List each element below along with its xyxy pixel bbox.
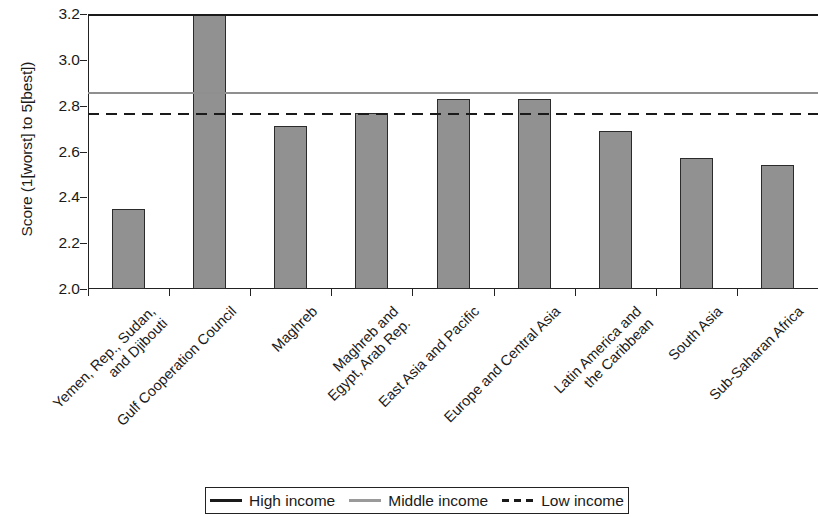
- y-tick-label: 2.6: [20, 144, 80, 160]
- reference-line-high: [88, 14, 818, 16]
- x-tick-mark: [169, 288, 170, 296]
- bar: [193, 14, 226, 289]
- legend-entry: Middle income: [342, 492, 495, 510]
- bar: [761, 165, 794, 289]
- y-tick-label: 2.2: [20, 235, 80, 251]
- y-tick-mark: [80, 289, 87, 290]
- y-tick-mark: [80, 197, 87, 198]
- bar: [599, 131, 632, 289]
- x-category-label: Europe and Central Asia: [389, 303, 564, 478]
- y-tick-label: 2.0: [20, 281, 80, 297]
- y-tick-mark: [80, 152, 87, 153]
- legend-swatch-solid-dark: [210, 499, 242, 501]
- bar: [518, 99, 551, 289]
- bar: [355, 113, 388, 289]
- x-tick-mark: [575, 288, 576, 296]
- legend-label: Low income: [541, 492, 624, 510]
- chart-legend: High incomeMiddle incomeLow income: [205, 487, 629, 514]
- x-category-label: Sub-Saharan Africa: [633, 303, 808, 478]
- x-category-label: Latin America and the Caribbean: [471, 303, 658, 490]
- x-tick-mark: [331, 288, 332, 296]
- y-tick-mark: [80, 243, 87, 244]
- y-tick-label: 3.2: [20, 6, 80, 22]
- x-category-label: East Asia and Pacific: [308, 303, 483, 478]
- y-tick-label: 3.0: [20, 52, 80, 68]
- legend-label: Middle income: [388, 492, 488, 510]
- x-category-label: Gulf Cooperation Council: [65, 303, 240, 478]
- bar: [274, 126, 307, 289]
- bar: [437, 99, 470, 289]
- x-tick-mark: [494, 288, 495, 296]
- bar: [112, 209, 145, 289]
- legend-entry: Low income: [495, 492, 631, 510]
- x-category-label: Maghreb and Egypt, Arab Rep.: [227, 303, 414, 490]
- y-tick-label: 2.8: [20, 98, 80, 114]
- bar: [680, 158, 713, 289]
- x-category-label: South Asia: [552, 303, 727, 478]
- x-tick-mark: [656, 288, 657, 296]
- x-category-label: Yemen, Rep., Sudan, and Djibouti: [0, 303, 171, 490]
- reference-line-middle: [88, 92, 818, 94]
- x-category-label: Maghreb: [146, 303, 321, 478]
- reference-line-low: [88, 113, 818, 115]
- legend-label: High income: [249, 492, 335, 510]
- y-tick-mark: [80, 106, 87, 107]
- bar-chart-figure: Score (1[worst] to 5[best]) 2.02.22.42.6…: [0, 0, 818, 517]
- x-tick-mark: [250, 288, 251, 296]
- x-tick-mark: [88, 288, 89, 296]
- y-tick-mark: [80, 60, 87, 61]
- legend-swatch-dashed-dark: [502, 499, 534, 502]
- x-tick-mark: [412, 288, 413, 296]
- legend-entry: High income: [203, 492, 342, 510]
- x-tick-mark: [737, 288, 738, 296]
- y-tick-mark: [80, 14, 87, 15]
- legend-swatch-solid-gray: [349, 499, 381, 502]
- y-tick-label: 2.4: [20, 189, 80, 205]
